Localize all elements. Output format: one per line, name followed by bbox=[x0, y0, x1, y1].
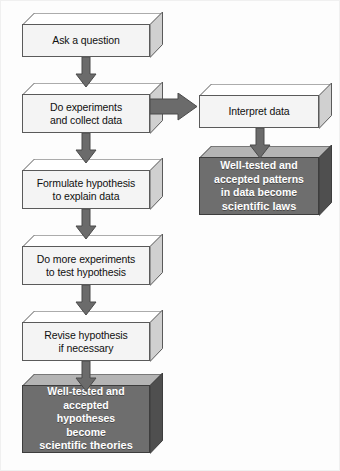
arrow-down-revise-to-theories bbox=[75, 361, 97, 392]
arrow-down-interpret-to-laws bbox=[249, 128, 271, 159]
node-ask-a-question[interactable]: Ask a question bbox=[22, 24, 150, 57]
node-label: Well-tested and accepted patterns in dat… bbox=[214, 159, 304, 213]
node-face: Interpret data bbox=[199, 95, 319, 128]
arrow-down-formulate-to-more-experiments bbox=[75, 209, 97, 240]
node-face: Do experiments and collect data bbox=[22, 94, 150, 133]
node-label: Ask a question bbox=[52, 34, 119, 47]
arrow-down-ask-to-experiments bbox=[75, 57, 97, 88]
box-side-face bbox=[319, 83, 332, 128]
box-side-face bbox=[319, 145, 332, 215]
node-scientific-laws[interactable]: Well-tested and accepted patterns in dat… bbox=[199, 157, 319, 215]
box-side-face bbox=[150, 310, 163, 361]
arrow-down-experiments-to-formulate bbox=[75, 133, 97, 164]
node-emphasis: scientific theories bbox=[39, 439, 133, 451]
node-label: Do more experiments to test hypothesis bbox=[37, 253, 135, 279]
arrow-down-more-experiments-to-revise bbox=[75, 285, 97, 316]
node-face: Revise hypothesis if necessary bbox=[22, 322, 150, 361]
node-emphasis: scientific laws bbox=[222, 200, 297, 212]
flowchart-canvas: Ask a question Do experiments and collec… bbox=[0, 0, 340, 471]
node-do-more-experiments[interactable]: Do more experiments to test hypothesis bbox=[22, 246, 150, 285]
node-scientific-theories[interactable]: Well-tested and accepted hypotheses beco… bbox=[22, 385, 150, 453]
node-revise-hypothesis[interactable]: Revise hypothesis if necessary bbox=[22, 322, 150, 361]
node-label: Revise hypothesis if necessary bbox=[44, 329, 128, 355]
node-label: Interpret data bbox=[228, 105, 289, 118]
node-face: Well-tested and accepted patterns in dat… bbox=[199, 157, 319, 215]
box-side-face bbox=[150, 234, 163, 285]
node-do-experiments[interactable]: Do experiments and collect data bbox=[22, 94, 150, 133]
box-side-face bbox=[150, 158, 163, 209]
node-face: Do more experiments to test hypothesis bbox=[22, 246, 150, 285]
box-side-face bbox=[150, 373, 163, 453]
node-label: Well-tested and accepted hypotheses beco… bbox=[39, 385, 133, 453]
box-top-face bbox=[22, 12, 150, 24]
box-top-face bbox=[199, 83, 319, 95]
node-face: Well-tested and accepted hypotheses beco… bbox=[22, 385, 150, 453]
box-side-face bbox=[150, 12, 163, 57]
node-interpret-data[interactable]: Interpret data bbox=[199, 95, 319, 128]
node-formulate-hypothesis[interactable]: Formulate hypothesis to explain data bbox=[22, 170, 150, 209]
node-label: Do experiments and collect data bbox=[50, 101, 122, 127]
arrow-right-experiments-to-interpret bbox=[150, 93, 198, 121]
node-label: Formulate hypothesis to explain data bbox=[37, 177, 135, 203]
node-face: Formulate hypothesis to explain data bbox=[22, 170, 150, 209]
node-face: Ask a question bbox=[22, 24, 150, 57]
